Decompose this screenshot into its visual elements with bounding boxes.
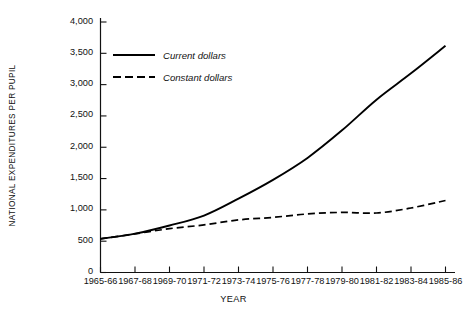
legend-solid-line-icon <box>112 50 156 60</box>
x-axis-tick-label: 1973-74 <box>222 276 256 286</box>
legend-label: Constant dollars <box>163 72 232 83</box>
legend-item: Constant dollars <box>112 66 302 88</box>
x-axis-tick-label: 1983-84 <box>394 276 428 286</box>
x-axis-tick-label: 1969-70 <box>153 276 187 286</box>
legend-dashed-line-icon <box>112 72 156 82</box>
legend-item: Current dollars <box>112 44 302 66</box>
x-axis-tick-label: 1975-76 <box>256 276 290 286</box>
x-axis-tick-label: 1967-68 <box>118 276 152 286</box>
x-axis-tick-label: 1981-82 <box>360 276 394 286</box>
x-axis-title: YEAR <box>0 294 467 304</box>
legend-label: Current dollars <box>163 50 226 61</box>
x-axis-tick-label: 1977-78 <box>291 276 325 286</box>
x-axis-tick-label: 1971-72 <box>187 276 221 286</box>
x-axis-tick-label: 1985-86 <box>429 276 463 286</box>
chart-container: NATIONAL EXPENDITURES PER PUPIL 05001,00… <box>0 0 467 319</box>
chart-legend: Current dollarsConstant dollars <box>112 44 302 88</box>
x-axis-tick-label: 1965-66 <box>84 276 118 286</box>
x-axis-tick-label: 1979-80 <box>325 276 359 286</box>
